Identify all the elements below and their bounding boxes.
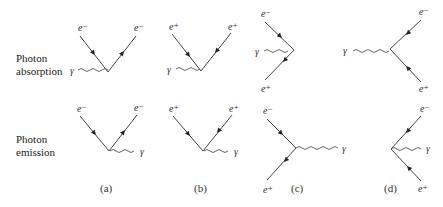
absorption-b: e⁺ e⁺ γ — [167, 21, 238, 75]
photon-label: γ — [167, 64, 172, 75]
absorption-d: e⁻ e⁺ γ — [343, 6, 429, 94]
particle-label: e⁺ — [169, 21, 179, 32]
caption-a: (a) — [100, 182, 113, 195]
particle-label: e⁻ — [261, 8, 271, 19]
particle-label: e⁻ — [134, 102, 144, 113]
particle-label: e⁺ — [169, 103, 179, 114]
particle-label: e⁻ — [78, 22, 88, 33]
particle-label: e⁺ — [229, 103, 239, 114]
emission-a: e⁻ e⁻ γ — [77, 102, 145, 157]
emission-c: e⁻ e⁺ γ — [263, 105, 347, 195]
particle-label: e⁻ — [77, 103, 87, 114]
feynman-diagram-figure: Photon absorption Photon emission e⁻ e⁻ … — [0, 0, 443, 207]
photon-label: γ — [426, 143, 431, 154]
particle-label: e⁺ — [263, 184, 273, 195]
particle-label: e⁻ — [134, 22, 144, 33]
particle-label: e⁺ — [419, 83, 429, 94]
photon-label: γ — [343, 45, 348, 56]
particle-label: e⁻ — [263, 105, 273, 116]
caption-b: (b) — [194, 182, 207, 195]
photon-label: γ — [342, 143, 347, 154]
diagrams-svg: e⁻ e⁻ γ e⁺ e⁺ γ e⁻ e⁺ γ — [0, 0, 443, 207]
particle-label: e⁻ — [419, 6, 429, 17]
photon-label: γ — [70, 65, 75, 76]
emission-b: e⁺ e⁺ γ — [169, 103, 239, 157]
particle-label: e⁺ — [261, 83, 271, 94]
photon-label: γ — [255, 46, 260, 57]
photon-label: γ — [140, 146, 145, 157]
absorption-a: e⁻ e⁻ γ — [70, 22, 144, 76]
particle-label: e⁻ — [420, 103, 430, 114]
absorption-c: e⁻ e⁺ γ — [255, 8, 294, 94]
emission-d: e⁻ e⁺ γ — [391, 103, 431, 194]
caption-d: (d) — [384, 182, 397, 195]
particle-label: e⁺ — [228, 21, 238, 32]
photon-label: γ — [234, 146, 239, 157]
particle-label: e⁺ — [418, 183, 428, 194]
caption-c: (c) — [291, 182, 304, 195]
